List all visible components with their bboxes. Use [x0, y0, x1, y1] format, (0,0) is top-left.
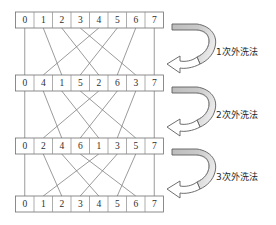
cell-value: 1 — [59, 78, 64, 88]
shuffle-line — [117, 28, 136, 75]
cell-value: 0 — [22, 199, 27, 209]
cell-value: 5 — [133, 141, 138, 151]
cell-value: 4 — [59, 141, 64, 151]
cell-value: 1 — [41, 199, 46, 209]
cell-value: 5 — [115, 15, 120, 25]
shuffle-lines-layer — [25, 28, 155, 196]
shuffle-line — [43, 154, 99, 196]
cell-value: 2 — [59, 199, 64, 209]
shuffle-line — [117, 154, 136, 196]
shuffle-line — [43, 154, 62, 196]
cell-value: 6 — [115, 78, 120, 88]
shuffle-line — [117, 91, 136, 138]
row-after-pass-1: 04152637 — [16, 75, 164, 91]
shuffle-line — [43, 91, 62, 138]
cell-value: 2 — [96, 78, 101, 88]
arrow-label-pass-2: 2次外洗法 — [216, 108, 258, 121]
shuffle-line — [43, 91, 99, 138]
cell-value: 0 — [22, 141, 27, 151]
shuffle-line — [80, 28, 136, 75]
row-initial: 01234567 — [16, 12, 164, 28]
shuffle-line — [43, 28, 99, 75]
cell-value: 0 — [22, 15, 27, 25]
shuffle-diagram: 01234567041526370246135701234567 1次外洗法 2… — [0, 0, 276, 225]
cell-value: 6 — [133, 199, 138, 209]
cell-value: 2 — [59, 15, 64, 25]
cell-value: 1 — [96, 141, 101, 151]
shuffle-line — [80, 91, 117, 138]
cell-value: 6 — [133, 15, 138, 25]
cell-value: 0 — [22, 78, 27, 88]
shuffle-line — [43, 28, 62, 75]
cell-value: 6 — [78, 141, 83, 151]
cell-value: 3 — [78, 15, 83, 25]
arrow-pass-1 — [167, 24, 216, 73]
cell-value: 7 — [152, 141, 157, 151]
cell-value: 4 — [41, 78, 46, 88]
cell-value: 5 — [78, 78, 83, 88]
curved-arrows-layer — [167, 24, 216, 198]
cell-value: 2 — [41, 141, 46, 151]
arrow-head — [167, 56, 200, 73]
cell-value: 4 — [96, 199, 101, 209]
cell-value: 5 — [115, 199, 120, 209]
shuffle-line — [80, 154, 136, 196]
arrow-pass-2 — [167, 87, 216, 136]
arrow-head — [167, 119, 200, 136]
cell-value: 7 — [152, 199, 157, 209]
row-after-pass-2: 02461357 — [16, 138, 164, 154]
shuffle-line — [62, 91, 99, 138]
shuffle-line — [62, 28, 99, 75]
shuffle-line — [80, 91, 136, 138]
cell-value: 7 — [152, 15, 157, 25]
cell-value: 1 — [41, 15, 46, 25]
arrow-head — [167, 181, 200, 198]
row-boxes-layer: 01234567041526370246135701234567 — [16, 12, 164, 212]
arrow-label-pass-1: 1次外洗法 — [216, 45, 258, 58]
cell-value: 3 — [133, 78, 138, 88]
cell-value: 4 — [96, 15, 101, 25]
shuffle-line — [62, 154, 99, 196]
cell-value: 7 — [152, 78, 157, 88]
arrow-pass-3 — [167, 149, 216, 198]
arrow-label-pass-3: 3次外洗法 — [216, 170, 258, 183]
cell-value: 3 — [78, 199, 83, 209]
row-after-pass-3: 01234567 — [16, 196, 164, 212]
cell-value: 3 — [115, 141, 120, 151]
shuffle-line — [80, 154, 117, 196]
shuffle-line — [80, 28, 117, 75]
